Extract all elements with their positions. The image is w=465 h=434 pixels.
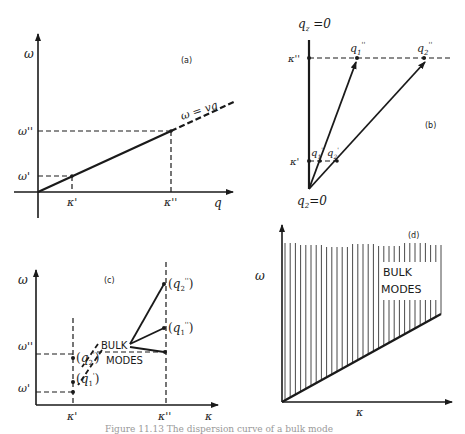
q2-dprime-label: q2'' — [417, 41, 432, 57]
panel-b-top-label: qz =0 — [298, 17, 331, 33]
panel-d: BULK MODES ω (d) κ — [255, 225, 452, 419]
panel-c: ω (c) ω'' ω' κ' κ'' κ (q2'') (q1'') (q2'… — [18, 262, 218, 423]
panel-b-tag: (b) — [425, 121, 436, 130]
q2-vector — [309, 62, 425, 189]
panel-b-bottom-label: q2=0 — [297, 194, 327, 210]
panel-c-omega-dprime: ω'' — [18, 340, 33, 353]
panel-c-omega-prime: ω' — [18, 382, 30, 395]
panel-a-omega-dprime: ω'' — [18, 125, 33, 138]
panel-d-tag: (d) — [408, 231, 419, 240]
figure-caption: Figure 11.13 The dispersion curve of a b… — [105, 424, 333, 434]
dispersion-line — [38, 131, 171, 192]
panel-a-kappa-dprime: κ'' — [163, 196, 177, 209]
q1-dprime-label: q1'' — [350, 41, 365, 57]
panel-d-omega-label: ω — [255, 269, 265, 283]
panel-a-omega-prime: ω' — [18, 170, 30, 183]
panel-b-kappa-prime: κ' — [289, 156, 299, 167]
point-q2-dprime: (q2'') — [168, 277, 193, 293]
panel-b: qz =0 q2=0 κ'' κ' q1'' q2'' q1' q2' (b) — [287, 17, 452, 210]
panel-a-kappa-prime: κ' — [66, 196, 77, 209]
panel-b-kappa-dprime: κ'' — [287, 53, 300, 64]
panel-a: ω (a) ω = vq ω'' ω' κ' κ'' q — [14, 34, 236, 218]
panel-c-kappa-dprime: κ'' — [157, 410, 171, 423]
point-q1-dprime: (q1'') — [168, 321, 193, 337]
panel-c-kappa-prime: κ' — [66, 410, 77, 423]
panel-c-omega-label: ω — [18, 273, 28, 287]
panel-d-modes-label: MODES — [381, 283, 422, 296]
panel-c-modes-label: MODES — [106, 355, 143, 366]
panel-a-tag: (a) — [181, 56, 192, 65]
figure-canvas: ω (a) ω = vq ω'' ω' κ' κ'' q qz =0 q2=0 … — [0, 0, 465, 434]
panel-a-q-label: q — [214, 196, 222, 210]
panel-a-line-label: ω = vq — [179, 99, 220, 123]
panel-c-tag: (c) — [104, 276, 115, 285]
panel-a-omega-label: ω — [24, 47, 34, 61]
panel-c-kappa-label: κ — [204, 410, 213, 423]
point-q1-prime: (q1') — [76, 372, 99, 388]
panel-c-bulk-label: BULK — [101, 340, 128, 351]
panel-d-kappa-label: κ — [355, 406, 364, 419]
panel-d-bulk-label: BULK — [383, 266, 413, 279]
q1-vector — [309, 62, 356, 189]
point-q2-prime: (q2') — [76, 351, 99, 367]
